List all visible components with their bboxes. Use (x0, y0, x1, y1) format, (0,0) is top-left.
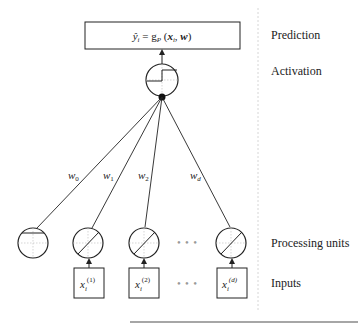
layer-label-processing-units: Processing units (271, 236, 350, 250)
connection-w0 (37, 97, 162, 228)
processing-unit-d (216, 228, 246, 258)
input-box-1: xi(1) (74, 268, 104, 298)
connection-w2 (145, 97, 162, 227)
activation-unit (146, 64, 178, 96)
layer-label-prediction: Prediction (271, 28, 320, 42)
connection-wd (162, 97, 230, 227)
ellipsis-units: • • • (176, 238, 198, 248)
weight-label-wd: wd (190, 169, 201, 183)
prediction-formula: ŷi = gP (xi, w) (132, 30, 192, 44)
connection-w1 (92, 97, 162, 228)
processing-unit-2 (129, 228, 159, 258)
layer-label-activation: Activation (271, 64, 322, 78)
input-box-d: xi(d) (217, 268, 247, 298)
weighted-connections (37, 97, 230, 228)
processing-unit-1 (73, 228, 103, 258)
input-box-2: xi(2) (129, 268, 159, 298)
perceptron-diagram: ŷi = gP (xi, w) w0 w1 w2 wd (0, 0, 358, 324)
ellipsis-inputs: • • • (176, 279, 198, 289)
weight-label-w1: w1 (103, 169, 114, 183)
prediction-box: ŷi = gP (xi, w) (85, 22, 240, 49)
weight-label-w2: w2 (138, 169, 149, 183)
layer-label-inputs: Inputs (271, 276, 301, 290)
bias-unit (18, 228, 48, 258)
weight-label-w0: w0 (68, 169, 79, 183)
